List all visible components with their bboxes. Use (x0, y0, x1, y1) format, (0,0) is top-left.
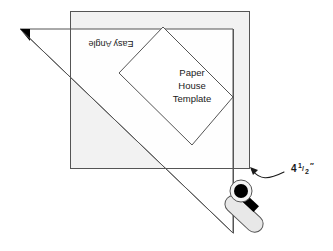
measurement-arrowhead-icon (250, 167, 258, 175)
diagram-canvas: Paper House Template Easy Angle 4 1 / 2 … (0, 0, 333, 251)
template-label-line1: Paper (179, 67, 204, 78)
rotary-cutter-blade-icon (234, 184, 248, 198)
template-label-line3: Template (173, 93, 212, 104)
easy-angle-label: Easy Angle (88, 39, 133, 49)
template-label-line2: House (178, 80, 205, 91)
measurement-denominator: 2 (305, 168, 309, 175)
paper-house-template-diagram: Paper House Template Easy Angle 4 1 / 2 … (0, 0, 333, 251)
measurement-unit-symbol: ″ (310, 161, 314, 170)
measurement-whole-number: 4 (291, 163, 297, 174)
measurement-fraction-slash: / (302, 165, 304, 172)
